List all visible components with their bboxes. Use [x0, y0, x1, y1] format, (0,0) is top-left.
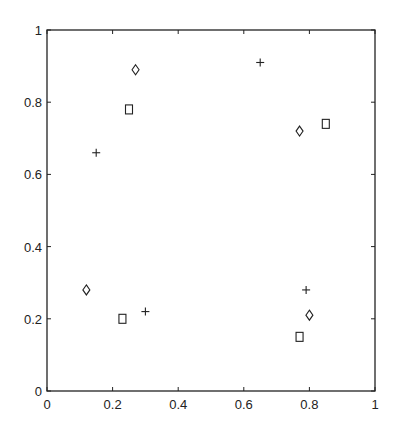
y-tick-label: 0.6: [24, 167, 42, 182]
y-tick-label: 0.4: [24, 240, 42, 255]
y-tick-label: 0: [35, 384, 42, 399]
plus-marker: [256, 58, 264, 66]
x-tick-label: 0.8: [300, 397, 318, 412]
square-marker: [119, 314, 126, 323]
tick-labels: 00.20.40.60.8100.20.40.60.81: [24, 23, 379, 412]
x-tick-label: 0.4: [169, 397, 187, 412]
square-marker: [322, 119, 329, 128]
square-marker: [126, 105, 133, 114]
diamond-marker: [132, 65, 139, 75]
x-tick-label: 0.6: [235, 397, 253, 412]
scatter-chart: 00.20.40.60.8100.20.40.60.81: [0, 0, 399, 432]
data-markers: [83, 58, 329, 341]
plus-marker: [302, 286, 310, 294]
diamond-marker: [83, 285, 90, 295]
axis-ticks: [47, 30, 375, 391]
diamond-marker: [306, 310, 313, 320]
plus-marker: [141, 308, 149, 316]
x-tick-label: 0.2: [104, 397, 122, 412]
y-tick-label: 1: [35, 23, 42, 38]
y-tick-label: 0.2: [24, 312, 42, 327]
plus-marker: [92, 149, 100, 157]
x-tick-label: 0: [43, 397, 50, 412]
y-tick-label: 0.8: [24, 95, 42, 110]
diamond-marker: [296, 126, 303, 136]
x-tick-label: 1: [371, 397, 378, 412]
square-marker: [296, 332, 303, 341]
plot-area-frame: [47, 30, 375, 391]
